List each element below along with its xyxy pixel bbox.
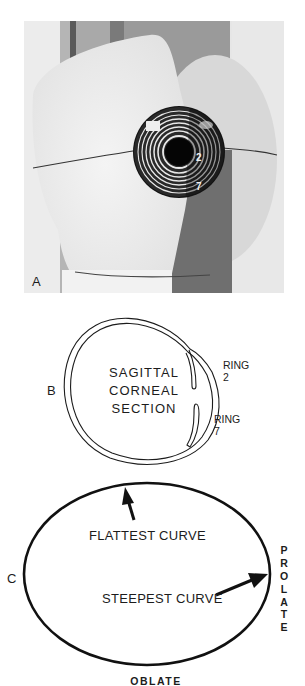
panel-a-photo: 2 7 A <box>0 0 305 300</box>
panel-c-label: C <box>7 571 16 586</box>
flattest-curve-label: FLATTEST CURVE <box>89 528 206 543</box>
panel-b-diagram: B SAGITTAL CORNEAL SECTION RING 2 RING 7 <box>0 300 305 470</box>
panel-b-label: B <box>47 383 56 398</box>
svg-text:A: A <box>280 596 288 608</box>
section-title-line-2: CORNEAL <box>109 383 179 398</box>
svg-text:L: L <box>281 583 288 595</box>
svg-text:O: O <box>280 570 288 582</box>
ring-cusps <box>186 350 199 447</box>
svg-text:R: R <box>280 557 288 569</box>
prolate-vertical-label: P R O L A T E <box>280 544 288 633</box>
ring-2-label-word: RING <box>223 359 249 371</box>
oblate-label: OBLATE <box>130 675 181 686</box>
panel-c-diagram: C FLATTEST CURVE STEEPEST CURVE OBLATE P… <box>0 470 305 686</box>
section-title-line-1: SAGITTAL <box>109 365 179 380</box>
prolate-ellipse <box>24 483 270 665</box>
ring-7-label-number: 7 <box>214 425 220 437</box>
svg-text:P: P <box>280 544 287 556</box>
svg-text:T: T <box>281 608 288 620</box>
photo-ring-7-label: 7 <box>196 181 202 192</box>
flattest-curve-arrow <box>122 487 134 520</box>
section-title-line-3: SECTION <box>112 401 177 416</box>
steepest-curve-label: STEEPEST CURVE <box>102 591 223 606</box>
svg-text:E: E <box>280 621 287 633</box>
panel-a-label: A <box>32 274 41 289</box>
ring-2-label-number: 2 <box>223 371 229 383</box>
photo-ring-2-label: 2 <box>196 152 202 163</box>
steepest-curve-arrow <box>216 573 268 595</box>
ring-7-label-word: RING <box>214 413 240 425</box>
